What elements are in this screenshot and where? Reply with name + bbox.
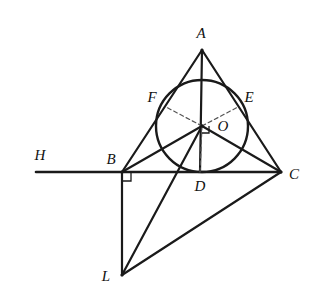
geometry-figure: AFEOHBDCL — [0, 0, 320, 308]
vertex-label-o: O — [218, 119, 229, 134]
vertex-label-l: L — [102, 269, 110, 284]
vertex-dot-c — [279, 170, 282, 173]
vertex-dot-a — [200, 48, 203, 51]
solid-lines-group — [36, 50, 281, 275]
segment-AC — [202, 50, 281, 172]
vertex-label-d: D — [195, 179, 206, 194]
vertex-label-c: C — [289, 167, 299, 182]
right-angle-at-B — [122, 172, 131, 181]
vertex-label-e: E — [244, 90, 253, 105]
vertex-label-f: F — [147, 90, 156, 105]
vertex-dot-o — [200, 124, 204, 128]
vertex-label-b: B — [106, 152, 115, 167]
vertex-dot-l — [120, 273, 123, 276]
segment-OF — [166, 107, 202, 126]
vertex-label-a: A — [196, 26, 205, 41]
segment-AB — [122, 50, 202, 172]
vertex-label-h: H — [35, 148, 46, 163]
figure-canvas — [0, 0, 320, 308]
vertex-dot-b — [120, 170, 123, 173]
